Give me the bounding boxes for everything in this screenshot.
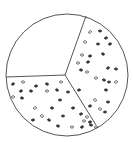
dot	[104, 89, 108, 92]
dot	[82, 120, 85, 123]
dot	[79, 112, 83, 115]
dot	[93, 98, 97, 101]
divider-top-right	[65, 16, 86, 75]
dot	[47, 118, 51, 121]
dot	[85, 71, 88, 74]
circle-outline	[6, 14, 128, 136]
dot	[104, 37, 108, 40]
dot	[34, 85, 38, 88]
dot	[33, 106, 37, 109]
dot	[80, 125, 84, 128]
dot	[101, 52, 105, 55]
dot	[114, 80, 118, 83]
dot	[103, 111, 106, 113]
dot	[45, 90, 49, 93]
dot	[29, 90, 33, 93]
dot	[76, 62, 79, 64]
dot-pattern	[11, 30, 118, 129]
dot	[88, 55, 92, 58]
dot	[88, 120, 92, 123]
dot	[108, 42, 112, 45]
dot	[71, 107, 75, 110]
dot	[31, 119, 34, 122]
diagram-canvas	[0, 0, 133, 142]
dot	[56, 124, 60, 127]
divider-bottom-right	[65, 75, 96, 125]
dot	[58, 99, 61, 101]
dot	[55, 88, 59, 91]
dot	[11, 82, 15, 85]
dot	[114, 68, 117, 71]
dot	[40, 114, 44, 117]
dot	[77, 89, 81, 92]
dot	[94, 77, 98, 80]
dot	[83, 40, 87, 43]
dot	[45, 82, 49, 85]
dot	[96, 43, 99, 45]
dot	[21, 81, 25, 84]
dot	[98, 30, 101, 33]
dot	[70, 126, 73, 128]
dot	[106, 66, 110, 69]
circle-sector-diagram	[0, 0, 133, 142]
dot	[86, 60, 90, 63]
dot	[94, 126, 98, 129]
dot	[59, 81, 62, 83]
divider-left	[6, 75, 65, 77]
dot	[88, 104, 92, 107]
dot	[88, 30, 92, 34]
dot	[61, 115, 64, 117]
dot	[89, 124, 93, 127]
dot	[85, 116, 89, 119]
dot	[50, 107, 54, 110]
dot	[102, 78, 106, 81]
dot	[79, 68, 83, 71]
dot	[20, 96, 24, 99]
dot	[66, 91, 69, 93]
dot	[107, 81, 110, 83]
dot	[11, 95, 15, 98]
dot	[106, 101, 109, 103]
dot	[80, 54, 84, 57]
dot	[19, 89, 23, 92]
dot	[98, 107, 102, 110]
